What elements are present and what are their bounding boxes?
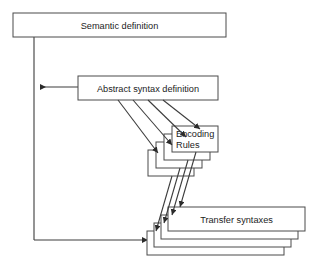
node-semantic-definition[interactable]: Semantic definition xyxy=(13,13,226,37)
transfer-syntaxes-label: Transfer syntaxes xyxy=(200,215,273,225)
node-abstract-syntax-definition[interactable]: Abstract syntax definition xyxy=(40,76,218,100)
semantic-definition-diagram: Semantic definition Abstract syntax defi… xyxy=(0,0,324,263)
node-transfer-syntaxes-stack[interactable]: Transfer syntaxes xyxy=(147,207,305,255)
encoding-rules-label-line2: Rules xyxy=(176,140,200,150)
abstract-to-encoding-arrow-2 xyxy=(148,100,186,137)
spine-connector-group xyxy=(34,37,143,240)
diagram-canvas: Semantic definition Abstract syntax defi… xyxy=(0,0,324,263)
abstract-to-encoding-arrow-3 xyxy=(133,100,172,145)
abstract-to-encoding-arrow-1 xyxy=(163,100,200,129)
abstract-to-encoding-arrow-4 xyxy=(118,100,158,153)
abstract-syntax-definition-label: Abstract syntax definition xyxy=(97,84,199,94)
semantic-definition-label: Semantic definition xyxy=(81,21,159,31)
